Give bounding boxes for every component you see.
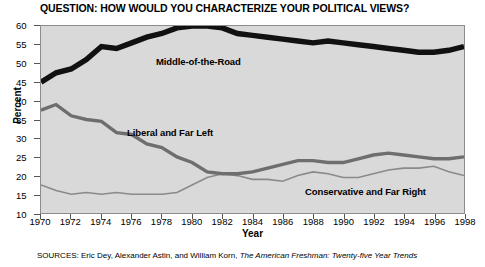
x-tick-mark: [192, 214, 193, 219]
series-lines: [41, 26, 464, 213]
x-axis-title: Year: [40, 228, 465, 239]
x-tick-mark: [435, 214, 436, 219]
chart-figure: QUESTION: HOW WOULD YOU CHARACTERIZE YOU…: [0, 0, 485, 267]
source-publication: The American Freshman: Twenty-five Year …: [240, 251, 418, 260]
x-tick-mark: [222, 214, 223, 219]
x-tick-mark: [283, 214, 284, 219]
x-tick-mark: [404, 214, 405, 219]
x-tick-mark: [313, 214, 314, 219]
series-line: [41, 26, 464, 82]
x-tick-mark: [374, 214, 375, 219]
x-tick-mark: [40, 214, 41, 219]
series-label-middle-of-the-road: Middle-of-the-Road: [156, 56, 241, 67]
source-note: SOURCES: Eric Dey, Alexander Astin, and …: [37, 251, 485, 260]
source-authors: Eric Dey, Alexander Astin, and William K…: [81, 251, 237, 260]
x-tick-mark: [161, 214, 162, 219]
series-line: [41, 105, 464, 174]
source-label: SOURCES:: [37, 251, 79, 260]
x-tick-mark: [465, 214, 466, 219]
chart-title: QUESTION: HOW WOULD YOU CHARACTERIZE YOU…: [40, 2, 470, 14]
x-tick-mark: [70, 214, 71, 219]
series-label-conservative-and-far-right: Conservative and Far Right: [305, 186, 426, 197]
series-label-liberal-and-far-left: Liberal and Far Left: [127, 127, 213, 138]
x-tick-mark: [101, 214, 102, 219]
x-tick-mark: [344, 214, 345, 219]
x-tick-mark: [253, 214, 254, 219]
x-tick-mark: [131, 214, 132, 219]
